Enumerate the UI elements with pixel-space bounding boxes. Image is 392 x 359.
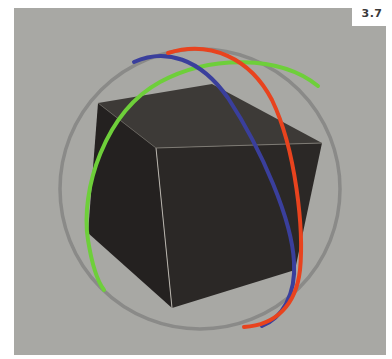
3d-viewport[interactable] — [0, 0, 392, 359]
figure-label: 3.7 — [352, 0, 392, 26]
cube-object[interactable] — [88, 84, 322, 308]
